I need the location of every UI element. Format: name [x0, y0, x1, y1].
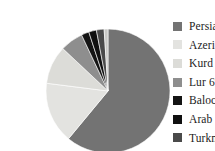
legend-swatch-arab-icon: [173, 115, 182, 124]
legend-label-persian: Persian 6%: [189, 17, 215, 36]
pie-plot-area: [40, 16, 174, 151]
legend-item-baloch[interactable]: Baloch 2%: [173, 91, 215, 110]
legend-item-kurd[interactable]: Kurd 10%: [173, 54, 215, 73]
legend-label-lur: Lur 6%: [189, 73, 215, 92]
legend-item-azeri[interactable]: Azeri 16%: [173, 36, 215, 55]
legend-swatch-turkmen-icon: [173, 133, 182, 142]
legend-label-arab: Arab 2%: [189, 110, 215, 129]
ethnic-composition-pie-chart: Persian 6% Azeri 16% Kurd 10% Lur 6% Bal…: [40, 16, 175, 135]
legend-label-kurd: Kurd 10%: [189, 54, 215, 73]
legend-item-turkmen[interactable]: Turkmen 2%: [173, 129, 215, 148]
legend-item-lur[interactable]: Lur 6%: [173, 73, 215, 92]
legend-swatch-persian-icon: [173, 22, 182, 31]
legend-swatch-lur-icon: [173, 78, 182, 87]
legend-swatch-azeri-icon: [173, 40, 182, 49]
legend-swatch-baloch-icon: [173, 96, 182, 105]
legend-label-other: Other 1%: [189, 147, 215, 151]
legend-item-arab[interactable]: Arab 2%: [173, 110, 215, 129]
legend-label-baloch: Baloch 2%: [189, 91, 215, 110]
pie-svg: [40, 16, 174, 151]
legend-swatch-kurd-icon: [173, 59, 182, 68]
legend-item-persian[interactable]: Persian 6%: [173, 17, 215, 36]
legend-item-other[interactable]: Other 1%: [173, 147, 215, 151]
legend-label-azeri: Azeri 16%: [189, 36, 215, 55]
chart-legend: Persian 6% Azeri 16% Kurd 10% Lur 6% Bal…: [173, 17, 215, 151]
legend-label-turkmen: Turkmen 2%: [189, 129, 215, 148]
